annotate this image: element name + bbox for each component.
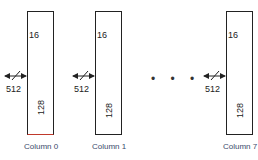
column-7-input-label: 512 [205, 84, 220, 94]
column-0-label: Column 0 [24, 142, 58, 151]
column-7-width-label: 16 [228, 30, 238, 40]
column-1-height-label: 128 [104, 103, 114, 118]
column-1-width-label: 16 [97, 30, 107, 40]
column-7-label: Column 7 [223, 142, 257, 151]
column-1-label: Column 1 [92, 142, 126, 151]
ellipsis: • • • [151, 72, 200, 86]
column-1-input-label: 512 [74, 84, 89, 94]
column-0-height-label: 128 [36, 100, 46, 115]
column-7-height-label: 128 [235, 103, 245, 118]
column-0-width-label: 16 [29, 30, 39, 40]
column-0-input-label: 512 [6, 84, 21, 94]
